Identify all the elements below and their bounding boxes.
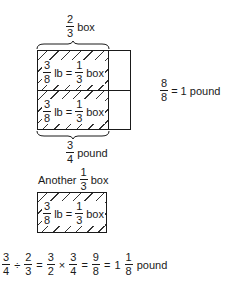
another-third-label: Another 13 box (38, 167, 108, 192)
hatched-third-1: 38 lb = 13 box (38, 51, 108, 90)
two-thirds-box-label: 23 box (66, 14, 95, 39)
another-third-box: 38 lb = 13 box (37, 192, 107, 233)
three-quarter-pound-label: 34 pound (66, 140, 108, 165)
hatched-third-2: 38 lb = 13 box (38, 91, 108, 129)
top-brace-icon (36, 40, 110, 50)
fraction: 23 (66, 14, 74, 39)
division-equation: 34 ÷ 23 = 32 × 34 = 98 = 1 18 pound (2, 252, 167, 277)
column-divider (108, 51, 109, 129)
cell-label: 38 lb = 13 box (42, 60, 105, 85)
bottom-brace-icon (36, 130, 110, 140)
one-pound-label: 88 = 1 pound (160, 78, 220, 103)
cell-label: 38 lb = 13 box (42, 201, 105, 226)
pound-box: 38 lb = 13 box 38 lb = 13 box (37, 50, 131, 130)
cell-label: 38 lb = 13 box (42, 99, 105, 124)
